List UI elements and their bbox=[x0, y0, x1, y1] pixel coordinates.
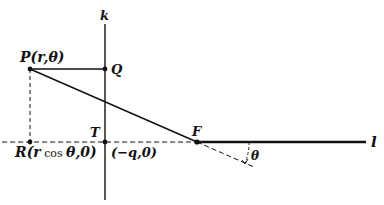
label-theta: θ bbox=[251, 149, 259, 163]
label-l: l bbox=[371, 133, 377, 151]
point-T bbox=[103, 140, 108, 145]
label-k: k bbox=[100, 8, 109, 23]
point-P bbox=[28, 67, 33, 72]
point-Q bbox=[103, 67, 108, 72]
point-F bbox=[194, 139, 199, 144]
segment-PF bbox=[30, 69, 197, 142]
label-P: P(r,θ) bbox=[19, 49, 64, 65]
label-R: R(r cos θ,0) bbox=[14, 144, 97, 160]
label-Q: Q bbox=[111, 62, 123, 77]
angle-arrowhead bbox=[242, 159, 248, 164]
label-T-coord: (−q,0) bbox=[111, 145, 157, 160]
polar-conic-diagram: k P(r,θ) Q T F l θ (−q,0) R(r cos θ,0) bbox=[0, 0, 384, 205]
label-T: T bbox=[90, 125, 101, 140]
label-F: F bbox=[191, 124, 202, 139]
